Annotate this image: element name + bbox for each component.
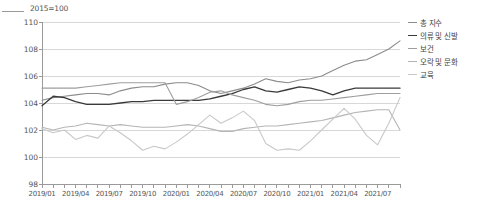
legend-item[interactable]: 보건 xyxy=(408,42,480,54)
x-axis-tick-label: 2021/04 xyxy=(331,190,358,198)
legend-item[interactable]: 총 지수 xyxy=(408,16,480,28)
legend-color-swatch xyxy=(408,61,417,62)
x-axis-tick-label: 2020/10 xyxy=(263,190,290,198)
x-axis-tick-label: 2019/04 xyxy=(62,190,89,198)
legend-item[interactable]: 의류 및 신발 xyxy=(408,29,480,41)
legend-color-swatch xyxy=(408,74,417,75)
x-axis-tick-label: 2021/01 xyxy=(297,190,324,198)
legend-color-swatch xyxy=(408,22,417,23)
x-axis-tick-label: 2019/10 xyxy=(129,190,156,198)
x-axis-tick-label: 2020/04 xyxy=(196,190,223,198)
legend-item-label: 교육 xyxy=(420,69,433,80)
x-axis-tick-label: 2020/01 xyxy=(163,190,190,198)
chart-container: 2015=100 98100102104106108110 2019/01201… xyxy=(0,0,480,217)
legend-item-label: 오락 및 문화 xyxy=(420,56,458,67)
legend-item[interactable]: 오락 및 문화 xyxy=(408,55,480,67)
legend-color-swatch xyxy=(408,35,417,36)
legend-item-label: 보건 xyxy=(420,43,433,54)
legend-item-label: 의류 및 신발 xyxy=(420,30,458,41)
x-axis-tick-label: 2021/07 xyxy=(364,190,391,198)
chart-legend: 총 지수의류 및 신발보건오락 및 문화교육 xyxy=(408,16,480,81)
legend-item-label: 총 지수 xyxy=(420,17,442,28)
x-axis-tick-label: 2019/01 xyxy=(29,190,56,198)
x-axis-tick-label: 2020/07 xyxy=(230,190,257,198)
legend-item[interactable]: 교육 xyxy=(408,68,480,80)
x-axis-tick-label: 2019/07 xyxy=(96,190,123,198)
legend-color-swatch xyxy=(408,48,417,49)
